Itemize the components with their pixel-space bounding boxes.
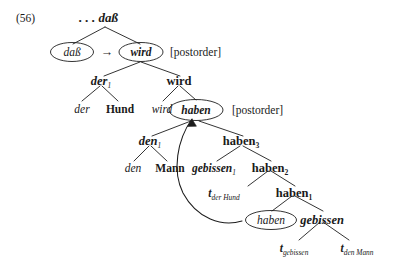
- circled-node-wird: wird: [130, 46, 151, 58]
- node-der1-label: der: [91, 74, 108, 88]
- tree-canvas: (56) . . . daß daß → wird [postorder] de…: [0, 0, 400, 269]
- node-haben1-subscript: 1: [308, 193, 312, 202]
- branch-haben-den1: [152, 121, 191, 136]
- leaf-wird: wird: [152, 103, 173, 115]
- trace-der-hund-subscript: der Hund: [212, 193, 240, 202]
- rewrite-arrow-icon: →: [101, 45, 114, 59]
- branch-wird2-wird: [163, 86, 178, 101]
- node-wird-level2: wird: [167, 74, 192, 88]
- circled-node-haben-mid: haben: [181, 104, 210, 116]
- trace-gebissen-subscript: gebissen: [283, 248, 309, 257]
- branch-root-dass: [73, 27, 105, 44]
- node-der1-subscript: 1: [107, 81, 111, 90]
- circled-node-haben-low: haben: [257, 214, 285, 226]
- trace-den-mann: tden Mann: [341, 242, 374, 257]
- trace-den-mann-subscript: den Mann: [344, 248, 374, 257]
- node-gebissen1-subscript: 1: [232, 168, 236, 177]
- branch-wird2-haben: [180, 86, 196, 100]
- syntax-tree-figure: (56) . . . daß daß → wird [postorder] de…: [0, 0, 400, 269]
- node-haben2: haben2: [252, 161, 289, 177]
- node-haben3-label: haben: [223, 134, 256, 148]
- node-haben2-subscript: 2: [284, 168, 288, 177]
- branch-haben3-gebissen1: [217, 146, 240, 161]
- leaf-der: der: [74, 103, 90, 115]
- node-den1-subscript: 1: [158, 141, 162, 150]
- node-den1-label: den: [139, 134, 158, 148]
- circled-node-dass: daß: [63, 46, 81, 58]
- node-haben3: haben3: [223, 134, 260, 150]
- node-den1: den1: [139, 134, 161, 150]
- node-gebissen: gebissen: [299, 213, 344, 227]
- tree-branches: [73, 27, 349, 240]
- trace-der-hund: tder Hund: [208, 187, 240, 202]
- branch-wird-der1: [104, 62, 140, 76]
- leaf-den: den: [125, 162, 142, 174]
- leaf-mann: Mann: [155, 162, 185, 174]
- example-number: (56): [16, 12, 35, 25]
- node-haben2-label: haben: [252, 161, 285, 175]
- annotation-postorder-mid: [postorder]: [232, 104, 283, 117]
- leaf-hund: Hund: [106, 103, 135, 115]
- branch-den1-den: [134, 146, 149, 161]
- node-gebissen1-label: gebissen: [191, 162, 232, 175]
- node-haben3-subscript: 3: [255, 141, 259, 150]
- node-haben1: haben1: [276, 186, 313, 202]
- node-gebissen1: gebissen1: [191, 162, 236, 177]
- circled-node-outlines: [51, 43, 297, 230]
- branch-der1-der: [82, 86, 100, 101]
- annotation-postorder-top: [postorder]: [170, 46, 221, 59]
- node-haben1-label: haben: [276, 186, 309, 200]
- branch-root-wird: [105, 27, 140, 44]
- node-der1: der1: [91, 74, 111, 90]
- node-root-label: . . . daß: [79, 10, 119, 25]
- trace-gebissen: tgebissen: [280, 242, 309, 257]
